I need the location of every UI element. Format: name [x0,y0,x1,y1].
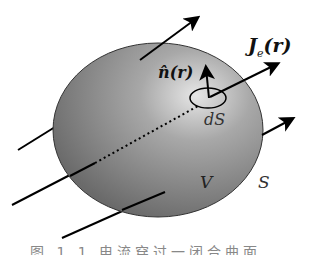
outgoing-arrow-right [262,119,292,135]
figure-caption: 图 1.1 电流穿过一闭合曲面 [30,241,290,255]
label-volume: V [200,172,212,192]
label-surface: S [258,172,270,192]
label-normal: n̂(r) [158,63,193,82]
label-ds: dS [204,110,225,129]
incoming-arrow-1 [18,127,55,150]
label-current-density: Je(r) [248,34,292,60]
